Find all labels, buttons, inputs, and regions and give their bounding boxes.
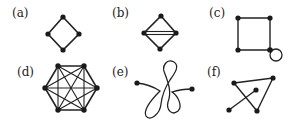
panel-d-label: (d) (17, 65, 34, 79)
panel-a-label: (a) (12, 6, 29, 20)
graph-figure: (a) (b) (c) (0, 0, 295, 122)
multigraph-diamond (141, 13, 178, 51)
panel-f: (f) (207, 65, 276, 114)
panel-d: (d) (17, 63, 100, 112)
panel-f-label: (f) (207, 65, 221, 79)
panel-b-label: (b) (112, 6, 129, 20)
diamond-graph (45, 14, 81, 52)
panel-b: (b) (112, 6, 179, 52)
triangle-with-crossing-edge (226, 75, 275, 113)
panel-c: (c) (209, 6, 282, 61)
panel-e: (e) (112, 61, 195, 118)
square-with-loop (235, 15, 282, 61)
panel-a: (a) (12, 6, 82, 53)
panel-e-label: (e) (112, 65, 128, 79)
complete-graph-k6 (42, 63, 99, 112)
panel-c-label: (c) (209, 6, 225, 20)
self-crossing-curve (134, 61, 194, 118)
